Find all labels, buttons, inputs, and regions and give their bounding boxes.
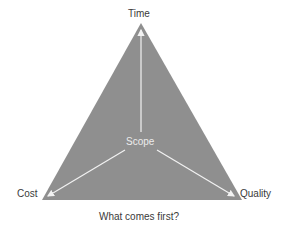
triangle-diagram: Time Cost Quality Scope What comes first… [0,0,288,230]
vertex-label-time: Time [128,8,150,19]
vertex-label-quality: Quality [240,188,271,199]
diagram-caption: What comes first? [99,211,179,222]
triangle-shape [42,23,242,200]
vertex-label-cost: Cost [17,188,38,199]
center-label-scope: Scope [126,136,154,147]
